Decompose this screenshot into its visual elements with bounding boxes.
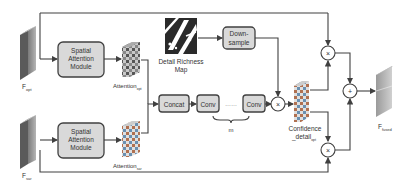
sam-top-label-2: Attention xyxy=(68,55,94,62)
arrow-multiply-top-to-add xyxy=(335,53,350,83)
attention-sar-label: Attentionsar xyxy=(113,163,142,171)
svg-text:+: + xyxy=(348,88,352,95)
output-fused-label: Ffused xyxy=(378,123,392,132)
concat-label: Concat xyxy=(164,101,185,108)
fusion-diagram: Fopt Fsar Spatial Attention Module Atten… xyxy=(0,0,418,186)
conv-ellipsis: …… xyxy=(225,101,237,107)
conv2-label: Conv xyxy=(246,101,262,108)
input-opt-label: Fopt xyxy=(22,83,32,92)
attention-opt-label: Attentionopt xyxy=(113,83,142,91)
confidence-label-2: _detailopt xyxy=(291,133,316,142)
sam-top-label-3: Module xyxy=(70,63,92,70)
input-feature-opt xyxy=(20,26,36,80)
downsample-label-2: sample xyxy=(229,39,250,47)
input-feature-sar xyxy=(20,115,36,169)
output-fused-feature xyxy=(376,66,393,117)
detail-richness-map-image xyxy=(165,18,197,54)
detail-map-label-2: Map xyxy=(175,66,188,74)
repeat-brace xyxy=(213,116,249,123)
add-operator: + xyxy=(343,84,357,98)
sam-top-label-1: Spatial xyxy=(71,47,91,55)
multiply-operator-top: × xyxy=(321,46,335,60)
arrow-to-concat xyxy=(141,104,158,133)
input-sar-label: Fsar xyxy=(22,172,32,181)
multiply-operator-bottom: × xyxy=(321,143,335,157)
attention-map-sar xyxy=(122,121,140,157)
connector xyxy=(141,60,148,104)
confidence-detail-map xyxy=(294,81,309,122)
repeat-count-label: m xyxy=(229,127,234,133)
sam-bottom-label-3: Module xyxy=(70,144,92,151)
confidence-label-1: Confidence xyxy=(289,125,322,132)
attention-map-opt xyxy=(122,42,140,77)
sam-bottom-label-2: Attention xyxy=(68,136,94,143)
sam-bottom-label-1: Spatial xyxy=(71,128,91,136)
svg-text:×: × xyxy=(326,147,330,154)
arrow-multiply-bottom-to-add xyxy=(335,99,350,150)
detail-map-label-1: Detail Richness xyxy=(158,58,204,65)
arrow-confidence-to-multiply-top xyxy=(310,61,328,90)
multiply-operator-mid: × xyxy=(271,97,285,111)
downsample-label-1: Down- xyxy=(230,30,249,37)
svg-text:×: × xyxy=(326,50,330,57)
svg-text:×: × xyxy=(276,101,280,108)
conv1-label: Conv xyxy=(200,101,216,108)
arrow-downsample-to-multiply xyxy=(255,38,278,96)
